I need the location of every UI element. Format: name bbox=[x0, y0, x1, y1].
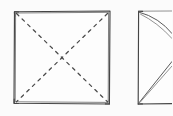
origami-diagram-canvas bbox=[0, 0, 172, 116]
folded-sheet-fill bbox=[139, 11, 173, 104]
panel-right-folded-result-partial bbox=[138, 11, 172, 104]
panel-left-square-with-diagonal-creases bbox=[14, 11, 110, 104]
origami-diagram-container bbox=[0, 0, 172, 116]
